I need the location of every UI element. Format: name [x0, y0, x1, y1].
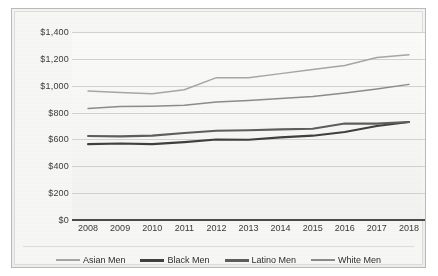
plot-area	[72, 32, 425, 220]
y-tick-label-0: $0	[17, 215, 69, 225]
legend-label: Asian Men	[83, 255, 126, 265]
legend-label: Latino Men	[252, 255, 297, 265]
x-tick-label-2010: 2010	[142, 223, 162, 233]
x-tick-label-2018: 2018	[399, 223, 419, 233]
series-line-black-men	[88, 122, 409, 144]
x-tick-label-2008: 2008	[78, 223, 98, 233]
y-tick-label-1200: $1,200	[17, 54, 69, 64]
x-tick-label-2013: 2013	[238, 223, 258, 233]
x-tick-label-2009: 2009	[110, 223, 130, 233]
y-tick-label-800: $800	[17, 108, 69, 118]
legend-label: Black Men	[167, 255, 209, 265]
y-axis-labels: $0$200$400$600$800$1,000$1,200$1,400	[15, 32, 69, 220]
y-tick-label-200: $200	[17, 188, 69, 198]
legend-item-white-men[interactable]: White Men	[311, 255, 381, 265]
series-line-white-men	[88, 84, 409, 108]
legend-swatch-icon	[225, 259, 249, 262]
legend-swatch-icon	[311, 259, 335, 261]
x-tick-label-2017: 2017	[367, 223, 387, 233]
legend-item-asian-men[interactable]: Asian Men	[56, 255, 126, 265]
y-tick-label-1000: $1,000	[17, 81, 69, 91]
series-lines	[72, 32, 425, 220]
legend-swatch-icon	[140, 259, 164, 262]
chart-screenshot: $0$200$400$600$800$1,000$1,200$1,400 200…	[0, 0, 438, 276]
x-tick-label-2014: 2014	[271, 223, 291, 233]
chart-legend: Asian MenBlack MenLatino MenWhite Men	[15, 250, 422, 270]
legend-label: White Men	[338, 255, 381, 265]
legend-item-latino-men[interactable]: Latino Men	[225, 255, 297, 265]
legend-divider	[23, 246, 414, 247]
x-tick-label-2016: 2016	[335, 223, 355, 233]
chart-frame: $0$200$400$600$800$1,000$1,200$1,400 200…	[11, 8, 426, 268]
x-axis-labels: 2008200920102011201220132014201520162017…	[72, 223, 425, 239]
legend-swatch-icon	[56, 259, 80, 261]
x-tick-label-2012: 2012	[206, 223, 226, 233]
chart-inner-panel: $0$200$400$600$800$1,000$1,200$1,400 200…	[14, 11, 423, 265]
x-tick-label-2015: 2015	[303, 223, 323, 233]
y-tick-label-1400: $1,400	[17, 27, 69, 37]
x-tick-label-2011: 2011	[175, 223, 194, 233]
y-tick-label-400: $400	[17, 161, 69, 171]
legend-item-black-men[interactable]: Black Men	[140, 255, 209, 265]
series-line-asian-men	[88, 55, 409, 94]
y-tick-label-600: $600	[17, 134, 69, 144]
